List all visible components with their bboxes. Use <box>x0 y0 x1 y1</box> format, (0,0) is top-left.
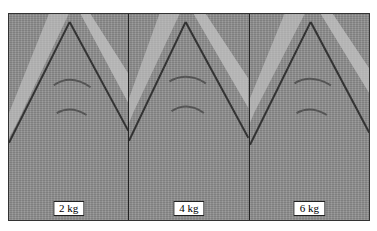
panel-6kg: 6 kg <box>250 14 369 220</box>
wave-pattern-icon <box>9 14 128 220</box>
wave-pattern-icon <box>129 14 248 220</box>
wave-pattern-icon <box>250 14 369 220</box>
panel-label: 4 kg <box>173 201 204 216</box>
panel-label: 2 kg <box>53 201 84 216</box>
figure-frame: 2 kg 4 kg 6 kg <box>8 13 370 221</box>
panel-2kg: 2 kg <box>9 14 129 220</box>
panel-4kg: 4 kg <box>129 14 249 220</box>
panel-label: 6 kg <box>294 201 325 216</box>
